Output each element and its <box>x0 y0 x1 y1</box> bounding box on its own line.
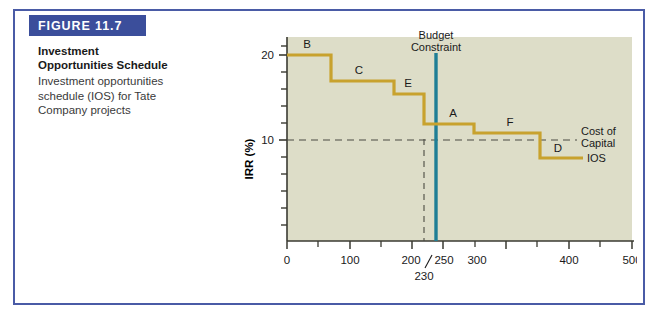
step-label-B: B <box>303 38 311 50</box>
figure-description-line-1: Investment opportunities <box>38 74 184 89</box>
y-axis-minor-ticks <box>281 46 287 225</box>
x-marker-label-230: 230 <box>414 270 433 282</box>
budget-constraint-label-line-1: Budget <box>419 31 454 41</box>
step-label-F: F <box>506 116 513 128</box>
y-tick-label-20: 20 <box>261 49 274 61</box>
step-label-E: E <box>404 77 412 89</box>
chart-area: 20 10 IRR (%) 0 <box>237 31 637 283</box>
step-label-D: D <box>554 142 562 154</box>
figure-description-line-2: schedule (IOS) for Tate <box>38 89 184 104</box>
x-axis-minor-ticks <box>318 241 600 247</box>
step-label-A: A <box>449 107 457 119</box>
y-tick-label-10: 10 <box>261 134 274 146</box>
tick-label-separator-slash <box>425 255 432 268</box>
figure-title: Investment Opportunities Schedule <box>38 44 180 72</box>
x-tick-label-100: 100 <box>340 254 359 266</box>
ios-step-chart: 20 10 IRR (%) 0 <box>237 31 637 283</box>
x-tick-label-400: 400 <box>559 254 578 266</box>
ios-series-label: IOS <box>587 152 606 164</box>
x-tick-label-500: 500 <box>622 254 637 266</box>
figure-title-line-2: Opportunities Schedule <box>38 58 180 72</box>
step-label-C: C <box>355 64 363 76</box>
figure-description-line-3: Company projects <box>38 103 184 118</box>
cost-of-capital-label-line-2: Capital <box>581 137 615 149</box>
figure-description: Investment opportunities schedule (IOS) … <box>38 74 184 118</box>
x-tick-label-200: 200 <box>401 254 420 266</box>
x-axis-major-ticks <box>287 241 632 249</box>
x-tick-label-300: 300 <box>467 254 486 266</box>
cost-of-capital-label-line-1: Cost of <box>581 125 617 137</box>
x-tick-label-0: 0 <box>284 254 290 266</box>
figure-title-line-1: Investment <box>38 44 180 58</box>
y-axis-major-ticks <box>279 55 287 140</box>
caption-column: FIGURE 11.7 Investment Opportunities Sch… <box>29 11 179 303</box>
figure-frame: FIGURE 11.7 Investment Opportunities Sch… <box>13 9 645 305</box>
x-tick-label-250: 250 <box>434 254 453 266</box>
figure-number-badge: FIGURE 11.7 <box>29 15 146 36</box>
y-axis-title: IRR (%) <box>243 138 255 179</box>
budget-constraint-label-line-2: Constraint <box>411 41 461 53</box>
